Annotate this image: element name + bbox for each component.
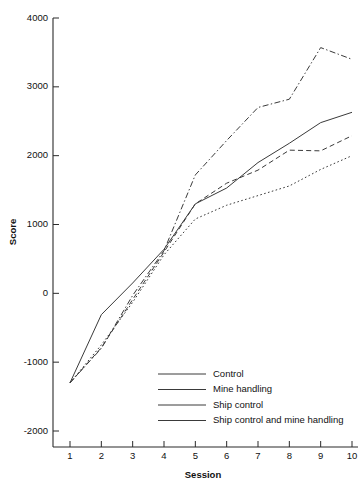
line-chart: 40003000200010000-1000-2000 12345678910 …: [0, 0, 364, 484]
chart-legend: ControlMine handlingShip controlShip con…: [158, 368, 343, 426]
x-axis-tick-label: 6: [224, 450, 229, 461]
legend-label-control: Control: [213, 368, 244, 379]
legend-label-ship-control: Ship control: [213, 399, 263, 410]
y-axis-tick-label: 0: [43, 287, 48, 298]
y-axis-title: Score: [7, 219, 18, 245]
x-axis-tick-label: 10: [347, 450, 358, 461]
x-axis-tick-label: 2: [99, 450, 104, 461]
y-axis-tick-label: 2000: [27, 149, 48, 160]
x-axis-tick-label: 5: [193, 450, 198, 461]
y-axis-tick-label: -1000: [24, 356, 48, 367]
y-axis-tick-label: 4000: [27, 12, 48, 23]
x-axis-tick-label: 7: [255, 450, 260, 461]
data-series-group: [70, 48, 352, 383]
legend-label-ship-control-and-mine-handling: Ship control and mine handling: [213, 414, 343, 425]
y-axis-tick-label: 3000: [27, 80, 48, 91]
series-line-control: [70, 156, 352, 383]
x-axis-title: Session: [185, 469, 222, 480]
y-axis-tick-label: -2000: [24, 425, 48, 436]
legend-label-mine-handling: Mine handling: [213, 383, 272, 394]
chart-canvas: 40003000200010000-1000-2000 12345678910 …: [0, 0, 364, 484]
y-axis: 40003000200010000-1000-2000: [24, 12, 59, 447]
x-axis-tick-label: 9: [318, 450, 323, 461]
x-axis-tick-label: 4: [161, 450, 166, 461]
series-line-ship-control-and-mine-handling: [70, 48, 352, 383]
x-axis-tick-label: 3: [130, 450, 135, 461]
series-line-mine-handling: [70, 136, 352, 383]
x-axis-tick-label: 1: [67, 450, 72, 461]
x-axis: 12345678910: [53, 441, 358, 461]
y-axis-tick-label: 1000: [27, 218, 48, 229]
series-line-ship-control: [70, 112, 352, 383]
x-axis-tick-label: 8: [287, 450, 292, 461]
